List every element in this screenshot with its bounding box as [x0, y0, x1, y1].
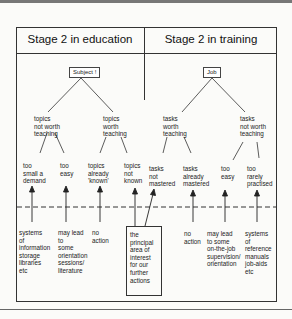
action-no-action-train: no action [184, 230, 201, 245]
bottom-rule [0, 309, 292, 310]
leaf-topics-not-known: topics not known [124, 162, 142, 185]
leaf-too-small-demand: too small a demand [23, 162, 46, 185]
leaf-tasks-already-mastered: tasks already mastered [183, 165, 209, 188]
leaf-topics-already-known: topics already 'known' [88, 162, 109, 185]
leaf-too-easy-edu: too easy [60, 162, 73, 177]
branch-topics-not-worth-teaching: topics not worth teaching [34, 115, 60, 138]
branch-topics-worth-teaching: topics worth teaching [103, 115, 127, 138]
action-orientation-sessions: may lead to some orientation sessions/ l… [58, 229, 87, 275]
leaf-tasks-not-mastered: tasks not mastered [149, 165, 175, 188]
branch-tasks-not-worth-teaching: tasks not worth teaching [240, 115, 266, 138]
action-on-the-job-supervision: may lead to some on-the-job supervision/… [207, 230, 241, 268]
root-subject: Subject ! [69, 67, 100, 78]
action-information-storage: systems of information storage libraries… [19, 229, 50, 275]
action-reference-manuals: systems of reference manuals job-aids et… [245, 230, 272, 276]
leaf-too-rarely-practised: too rarely practised [247, 165, 273, 188]
principal-interest-label: the principal area of interest for our f… [130, 231, 158, 284]
action-no-action-edu: no action [92, 229, 109, 244]
root-job: Job [203, 67, 221, 78]
branch-tasks-worth-teaching: tasks worth teaching [163, 115, 187, 138]
leaf-too-easy-train: too easy [221, 165, 234, 180]
principal-interest-box: the principal area of interest for our f… [126, 226, 162, 296]
